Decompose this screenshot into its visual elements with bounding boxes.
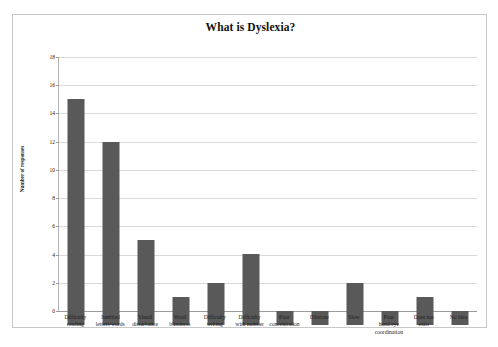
- bar-slot: [59, 71, 94, 325]
- y-axis-tick-label: 14: [49, 110, 55, 116]
- bar-slot: [303, 71, 338, 325]
- y-axis-title: Number of responses: [19, 94, 25, 244]
- bar[interactable]: [68, 99, 85, 325]
- x-axis-tick-label-line: exist: [400, 321, 447, 328]
- plot-box: 024681012141618: [58, 57, 477, 312]
- bar-slot: [94, 71, 129, 325]
- y-axis-tick-label: 10: [49, 167, 55, 173]
- bar-slot: [129, 71, 164, 325]
- y-axis-tick-mark: [56, 57, 59, 58]
- bar-slot: [442, 71, 477, 325]
- bar-slot: [338, 71, 373, 325]
- y-axis-tick-label: 2: [52, 280, 55, 286]
- bar-slot: [407, 71, 442, 325]
- bar-slot: [268, 71, 303, 325]
- x-axis-tick-label-line: No idea: [435, 314, 482, 321]
- bar[interactable]: [103, 142, 120, 325]
- x-axis-tick-label: No idea: [435, 314, 482, 321]
- bars-group: [59, 71, 477, 325]
- y-axis-tick-label: 12: [49, 139, 55, 145]
- y-axis-tick-label: 6: [52, 223, 55, 229]
- bar[interactable]: [138, 240, 155, 325]
- y-axis-tick-label: 8: [52, 195, 55, 201]
- chart-frame: What is Dyslexia? Number of responses 02…: [12, 14, 487, 328]
- chart-title: What is Dyslexia?: [13, 21, 488, 33]
- bar-slot: [164, 71, 199, 325]
- bar-slot: [198, 71, 233, 325]
- x-axis-tick-label-line: coordination: [365, 329, 412, 336]
- bar-slot: [373, 71, 408, 325]
- x-axis-tick-label-line: concentration: [261, 321, 308, 328]
- y-axis-tick-label: 18: [49, 54, 55, 60]
- plot-area: 024681012141618: [58, 43, 476, 311]
- y-axis-tick-label: 16: [49, 82, 55, 88]
- y-axis-tick-label: 4: [52, 252, 55, 258]
- x-axis-tick-labels: DifficultyreadingJumbledletters/wordsVis…: [58, 314, 476, 347]
- gridline: [59, 57, 477, 58]
- bar-slot: [233, 71, 268, 325]
